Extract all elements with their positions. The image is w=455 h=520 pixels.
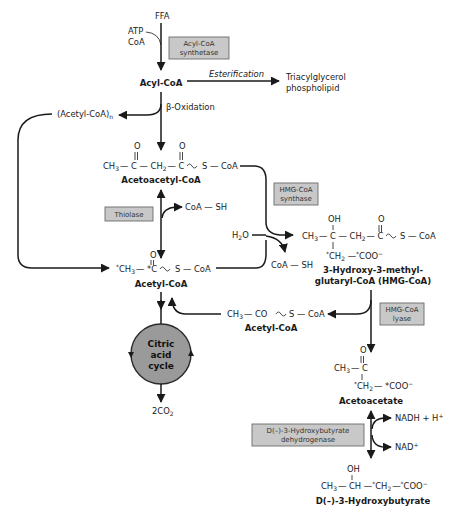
acetoacetyl-coa-structure: O O CH3— C — CH2— C S — CoA — [103, 141, 238, 172]
released-acetyl-coa-structure: CH3— CO S — CoA — [227, 309, 325, 320]
svg-text:CH3— CH —*CH2—*COO−: CH3— CH —*CH2—*COO− — [321, 480, 428, 492]
acetyl-coa-structure: O *CH3— *C S — CoA — [116, 250, 211, 275]
svg-text:CH3— C: CH3— C — [334, 363, 368, 374]
svg-text:HMG-CoA: HMG-CoA — [385, 306, 418, 314]
svg-text:D(–)-3-Hydroxybutyrate: D(–)-3-Hydroxybutyrate — [267, 427, 350, 435]
svg-text:O: O — [179, 141, 186, 151]
svg-text:O: O — [360, 345, 367, 355]
svg-text:synthase: synthase — [280, 195, 312, 203]
hmg-coa-name-line2: glutaryl-CoA (HMG-CoA) — [315, 276, 431, 286]
thioester-bond-icon — [160, 267, 170, 271]
released-acetyl-coa-name: Acetyl-CoA — [245, 323, 298, 333]
triacylglycerol-label: Triacylglycerol — [285, 72, 346, 82]
acetyl-coa-return-arrow — [172, 298, 221, 314]
hmg-coa-sh: CoA — SH — [271, 260, 313, 270]
svg-text:Citric: Citric — [148, 339, 175, 349]
svg-text:CH3— C — CH2— C: CH3— C — CH2— C — [103, 161, 185, 172]
svg-text:OH: OH — [347, 464, 360, 474]
svg-text:S — CoA: S — CoA — [289, 309, 325, 319]
hydroxybutyrate-dehydrogenase-enzyme-box: D(–)-3-Hydroxybutyrate dehydrogenase — [252, 424, 364, 446]
thiolase-enzyme-box: Thiolase — [105, 207, 153, 221]
svg-text:lyase: lyase — [393, 315, 411, 323]
nadh-output-arrow — [372, 418, 391, 429]
acetyl-coa-n-branch-arrow — [119, 104, 161, 115]
svg-text:CH3— CO: CH3— CO — [227, 309, 268, 320]
svg-text:OH: OH — [328, 214, 341, 224]
svg-text:synthetase: synthetase — [180, 49, 219, 57]
svg-text:Acyl-CoA: Acyl-CoA — [183, 40, 214, 48]
hydroxybutyrate-name: D(–)-3-Hydroxybutyrate — [316, 496, 431, 506]
phospholipid-label: phospholipid — [286, 83, 339, 93]
svg-text:*CH2— *COO−: *CH2— *COO− — [354, 380, 413, 392]
svg-text:Thiolase: Thiolase — [113, 211, 143, 219]
hmg-lyase-acetyl-coa-release-arrow — [328, 300, 371, 314]
svg-text:HMG-CoA: HMG-CoA — [279, 186, 312, 194]
svg-text:S — CoA: S — CoA — [202, 161, 238, 171]
ffa-label: FFA — [155, 11, 170, 21]
svg-text:O: O — [150, 250, 157, 260]
nad-output-arrow — [372, 435, 391, 447]
svg-text:acid: acid — [151, 350, 172, 360]
nadh-label: NADH + H+ — [395, 412, 443, 423]
coa-label: CoA — [128, 37, 145, 47]
svg-text:O: O — [134, 141, 141, 151]
thioester-bond-icon — [187, 164, 197, 168]
hmg-coa-name-line1: 3-Hydroxy-3-methyl- — [323, 265, 423, 275]
acetyl-coa-n-label: (Acetyl-CoA)n — [57, 109, 113, 120]
acetoacetate-name: Acetoacetate — [339, 396, 403, 406]
thioester-bond-icon — [386, 234, 396, 238]
water-label: H2O — [232, 230, 249, 241]
hmg-coa-lyase-enzyme-box: HMG-CoA lyase — [380, 303, 424, 325]
acetoacetate-structure: O CH3— C *CH2— *COO− — [334, 345, 413, 392]
acetyl-coa-to-hmg-curve — [216, 240, 266, 268]
acetyl-coa-n-loop-arrow — [18, 114, 109, 268]
svg-text:*CH3— *C: *CH3— *C — [116, 263, 157, 275]
hmg-coa-sh-release-arrow — [266, 236, 285, 252]
svg-text:*CH2 —*COO−: *CH2 —*COO− — [326, 250, 383, 262]
nad-label: NAD+ — [395, 441, 418, 452]
beta-oxidation-label: β-Oxidation — [166, 102, 215, 112]
svg-text:S — CoA: S — CoA — [175, 264, 211, 274]
hydroxybutyrate-structure: OH CH3— CH —*CH2—*COO− — [321, 464, 428, 492]
acetoacetyl-coa-name: Acetoacetyl-CoA — [121, 175, 201, 185]
thioester-bond-icon — [276, 312, 286, 316]
svg-text:S — CoA: S — CoA — [400, 231, 436, 241]
atp-label: ATP — [128, 26, 143, 36]
svg-text:dehydrogenase: dehydrogenase — [281, 436, 335, 444]
thiolase-coa-sh: CoA — SH — [185, 202, 227, 212]
citric-acid-cycle: Citric acid cycle — [128, 324, 194, 384]
svg-text:cycle: cycle — [148, 361, 174, 371]
esterification-label: Esterification — [209, 69, 264, 79]
ketogenesis-diagram: FFA ATP CoA Acyl-CoA synthetase Acyl-CoA… — [0, 0, 455, 520]
svg-text:CH3— C — CH2— C: CH3— C — CH2— C — [302, 231, 384, 242]
hmg-coa-synthase-enzyme-box: HMG-CoA synthase — [274, 183, 318, 205]
thiolase-coa-sh-release-arrow — [162, 207, 182, 218]
acyl-coa-label: Acyl-CoA — [140, 78, 183, 88]
hmg-coa-structure: OH O CH3— C — CH2— C S — CoA *CH2 —*COO− — [302, 214, 436, 262]
acetyl-coa-name: Acetyl-CoA — [135, 279, 188, 289]
atp-coa-input-curve — [146, 32, 161, 45]
acyl-coa-synthetase-enzyme-box: Acyl-CoA synthetase — [169, 37, 229, 59]
co2-label: 2CO2 — [152, 406, 174, 417]
svg-text:O: O — [378, 214, 385, 224]
